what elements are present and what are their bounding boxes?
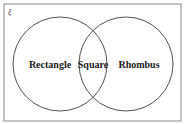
square-label: Square xyxy=(78,59,109,70)
rhombus-label: Rhombus xyxy=(118,59,159,70)
rectangle-label: Rectangle xyxy=(29,59,72,70)
venn-diagram: ξ Rectangle Square Rhombus xyxy=(0,0,184,124)
universal-set-symbol: ξ xyxy=(8,8,12,17)
